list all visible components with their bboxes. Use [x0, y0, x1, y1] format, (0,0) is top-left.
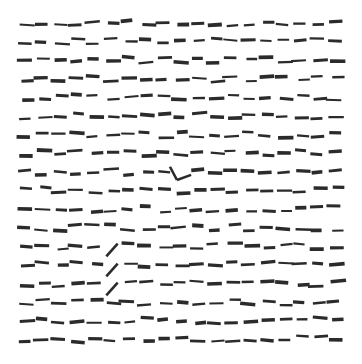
distractor-dash [108, 116, 119, 117]
visual-search-stimulus-figure [0, 0, 362, 364]
distractor-dash [189, 210, 202, 211]
distractor-dash [58, 248, 69, 249]
distractor-dash [192, 304, 205, 305]
distractor-dash [298, 284, 310, 285]
distractor-dash [329, 21, 342, 22]
distractor-dash [19, 304, 33, 305]
distractor-dash [69, 132, 84, 133]
distractor-dash [71, 94, 82, 95]
distractor-dash [211, 189, 225, 190]
distractor-dash [40, 187, 51, 188]
distractor-dash [207, 244, 218, 245]
distractor-dash [70, 262, 83, 263]
distractor-dash [18, 43, 32, 44]
distractor-dash [295, 150, 306, 151]
distractor-dash [208, 25, 222, 26]
distractor-dash [56, 210, 67, 211]
distractor-dash [54, 24, 67, 25]
distractor-dash [68, 224, 82, 225]
stimulus-canvas [0, 0, 362, 364]
distractor-dash [262, 320, 275, 321]
distractor-dash [261, 261, 275, 263]
distractor-dash [18, 170, 31, 171]
distractor-dash [54, 171, 67, 172]
figure-background [0, 0, 362, 364]
distractor-dash [20, 286, 34, 287]
distractor-dash [209, 135, 220, 136]
distractor-dash [21, 81, 33, 82]
distractor-dash [20, 188, 32, 189]
distractor-dash [142, 25, 156, 26]
distractor-dash [70, 61, 82, 62]
distractor-dash [293, 243, 304, 244]
distractor-dash [123, 174, 134, 175]
distractor-dash [55, 43, 70, 44]
distractor-dash [54, 154, 66, 155]
distractor-dash [53, 230, 67, 231]
distractor-dash [263, 211, 276, 212]
distractor-dash [314, 98, 328, 99]
distractor-dash [158, 171, 170, 172]
distractor-dash [70, 174, 81, 175]
distractor-dash [121, 209, 132, 210]
distractor-dash [104, 340, 116, 341]
distractor-dash [71, 342, 85, 343]
distractor-dash [34, 230, 47, 231]
distractor-dash [160, 212, 171, 213]
distractor-dash [86, 76, 100, 77]
distractor-dash [139, 281, 153, 282]
distractor-dash [227, 25, 238, 26]
distractor-dash [190, 281, 204, 282]
distractor-dash [177, 302, 188, 303]
distractor-dash [240, 303, 255, 304]
distractor-dash [108, 322, 120, 323]
distractor-dash [158, 113, 171, 114]
distractor-dash [70, 321, 85, 322]
distractor-dash [331, 280, 346, 281]
distractor-dash [207, 323, 221, 324]
distractor-dash [209, 98, 224, 99]
distractor-dash [313, 317, 328, 318]
distractor-dash [71, 39, 85, 40]
distractor-dash [158, 189, 171, 190]
distractor-dash [211, 38, 222, 39]
distractor-dash [140, 114, 155, 115]
distractor-dash [139, 188, 152, 189]
distractor-dash [138, 266, 151, 267]
distractor-dash [190, 341, 205, 342]
distractor-dash [125, 96, 139, 97]
distractor-dash [275, 282, 288, 283]
distractor-dash [328, 41, 342, 42]
distractor-dash [310, 118, 322, 119]
distractor-dash [121, 20, 133, 21]
distractor-dash [312, 172, 323, 173]
distractor-dash [277, 172, 289, 173]
distractor-dash [241, 264, 255, 265]
distractor-dash [139, 62, 154, 63]
distractor-dash [50, 339, 65, 340]
distractor-dash [209, 230, 220, 231]
distractor-dash [258, 172, 272, 173]
distractor-dash [176, 321, 187, 322]
distractor-dash [141, 317, 154, 318]
distractor-dash [192, 78, 207, 79]
distractor-dash [20, 246, 32, 247]
distractor-dash [177, 132, 188, 133]
distractor-dash [224, 136, 239, 137]
distractor-dash [310, 154, 322, 155]
distractor-dash [329, 151, 342, 152]
distractor-dash [103, 81, 119, 82]
distractor-dash [194, 40, 205, 41]
distractor-dash [263, 155, 275, 156]
distractor-dash [85, 21, 100, 22]
distractor-dash [244, 25, 255, 26]
distractor-dash [106, 135, 120, 136]
distractor-dash [92, 264, 103, 265]
distractor-dash [278, 62, 293, 63]
distractor-dash [314, 336, 328, 337]
distractor-dash [275, 228, 290, 229]
distractor-dash [39, 99, 51, 100]
distractor-dash [260, 340, 273, 341]
distractor-dash [190, 152, 203, 153]
distractor-dash [326, 100, 341, 101]
